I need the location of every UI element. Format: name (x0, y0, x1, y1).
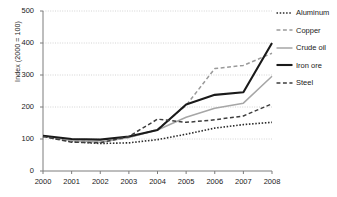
legend-line-swatch-icon (276, 9, 293, 17)
legend-line-swatch-icon (276, 44, 293, 52)
chart-legend: AluminumCopperCrude oilIron oreSteel (276, 4, 336, 92)
legend-item-aluminum[interactable]: Aluminum (276, 4, 336, 22)
gridlines (43, 11, 272, 139)
legend-line-swatch-icon (276, 61, 293, 69)
legend-label: Crude oil (296, 43, 326, 52)
series-line-crude-oil (43, 76, 272, 142)
legend-item-copper[interactable]: Copper (276, 22, 336, 40)
series-line-steel (43, 104, 272, 143)
legend-item-iron-ore[interactable]: Iron ore (276, 57, 336, 75)
legend-label: Copper (296, 26, 321, 35)
legend-item-crude-oil[interactable]: Crude oil (276, 39, 336, 57)
legend-line-swatch-icon (276, 79, 293, 87)
legend-label: Iron ore (296, 61, 322, 70)
legend-label: Aluminum (296, 8, 329, 17)
price-index-line-chart: Index (2000 = 100) 0100200300400500 2000… (0, 0, 337, 197)
legend-line-swatch-icon (276, 26, 293, 34)
axis-lines (43, 11, 272, 171)
legend-item-steel[interactable]: Steel (276, 74, 336, 92)
legend-label: Steel (296, 78, 313, 87)
data-series (43, 43, 272, 143)
